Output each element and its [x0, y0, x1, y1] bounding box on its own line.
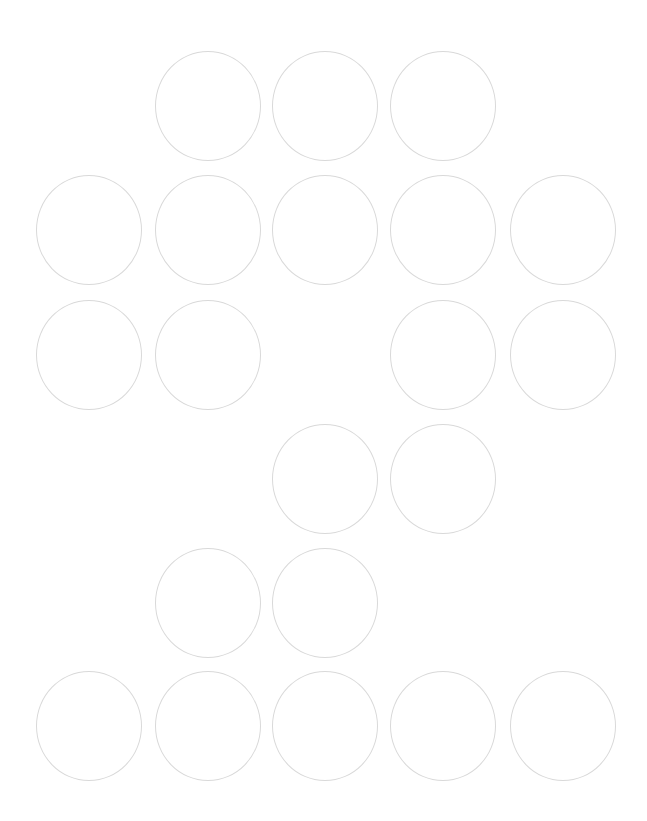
circle-cell-r6-c3[interactable] — [272, 671, 378, 781]
circle-cell-r6-c2[interactable] — [155, 671, 261, 781]
circle-cell-r2-c3[interactable] — [272, 175, 378, 285]
circle-grid-board — [0, 0, 647, 821]
circle-cell-r3-c1[interactable] — [36, 300, 142, 410]
circle-cell-r3-c5[interactable] — [510, 300, 616, 410]
circle-cell-r2-c4[interactable] — [390, 175, 496, 285]
circle-cell-r1-c2[interactable] — [155, 51, 261, 161]
circle-cell-r6-c4[interactable] — [390, 671, 496, 781]
circle-cell-r2-c2[interactable] — [155, 175, 261, 285]
circle-cell-r6-c1[interactable] — [36, 671, 142, 781]
circle-cell-r6-c5[interactable] — [510, 671, 616, 781]
circle-cell-r3-c2[interactable] — [155, 300, 261, 410]
circle-cell-r2-c5[interactable] — [510, 175, 616, 285]
circle-cell-r5-c2[interactable] — [155, 548, 261, 658]
circle-cell-r4-c4[interactable] — [390, 424, 496, 534]
circle-cell-r5-c3[interactable] — [272, 548, 378, 658]
circle-cell-r4-c3[interactable] — [272, 424, 378, 534]
circle-cell-r3-c4[interactable] — [390, 300, 496, 410]
circle-cell-r1-c3[interactable] — [272, 51, 378, 161]
circle-cell-r1-c4[interactable] — [390, 51, 496, 161]
circle-cell-r2-c1[interactable] — [36, 175, 142, 285]
